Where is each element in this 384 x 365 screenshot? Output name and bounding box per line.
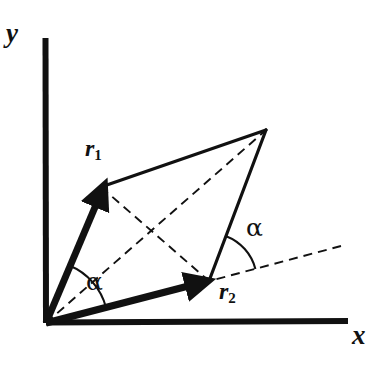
vector-label-r2-subscript: 2 bbox=[228, 290, 236, 306]
y-axis-label: y bbox=[6, 20, 18, 47]
vector-r1-shaft bbox=[46, 193, 101, 323]
vector-label-r2-base: r bbox=[219, 278, 228, 304]
diagonal-r1-to-r2-dashed bbox=[101, 187, 209, 281]
vector-diagram-figure: y x r1 r2 α α bbox=[0, 0, 384, 365]
x-axis-line bbox=[46, 321, 348, 323]
x-axis-label: x bbox=[352, 322, 366, 349]
y-axis-line bbox=[46, 38, 47, 323]
vector-label-r1-subscript: 1 bbox=[94, 147, 102, 163]
edge-r2-to-apex bbox=[209, 130, 266, 281]
edge-r1-to-apex bbox=[101, 130, 266, 187]
angle-label-alpha-origin: α bbox=[86, 269, 103, 294]
vector-diagram-canvas bbox=[0, 0, 384, 365]
vector-label-r2: r2 bbox=[219, 279, 236, 306]
vector-label-r1: r1 bbox=[85, 136, 102, 163]
vector-label-r1-base: r bbox=[85, 135, 94, 161]
angle-label-alpha-r2: α bbox=[246, 215, 263, 240]
